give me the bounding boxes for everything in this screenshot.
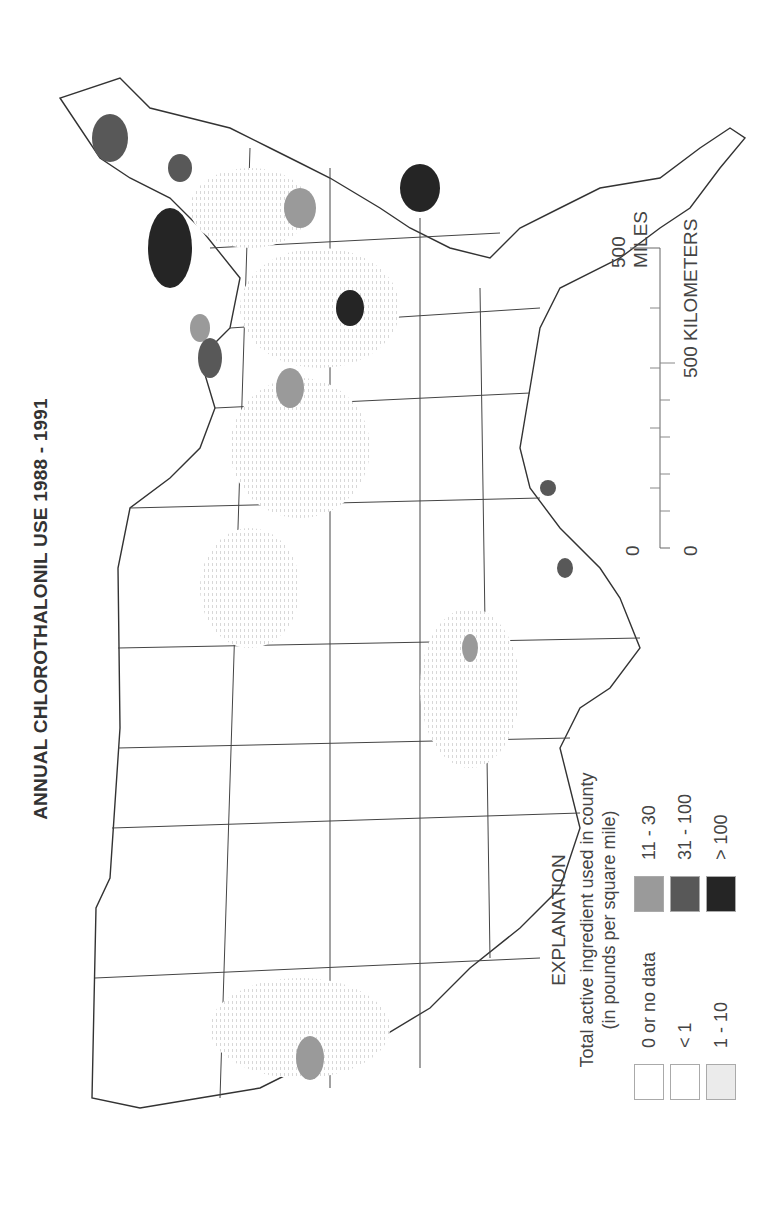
legend-label: 31 - 100 — [675, 794, 696, 860]
legend-swatch — [670, 1064, 700, 1100]
legend-label: > 100 — [711, 814, 732, 860]
legend-item: 0 or no data — [634, 952, 664, 1100]
legend-item: 31 - 100 — [670, 794, 700, 912]
map-figure: ANNUAL CHLOROTHALONIL USE 1988 - 1991 — [0, 0, 783, 1208]
legend-item: 11 - 30 — [634, 794, 664, 912]
legend-item: > 100 — [706, 794, 736, 912]
legend-item: < 1 — [670, 952, 700, 1100]
legend-swatch — [634, 876, 664, 912]
scale-bar: 0 500 MILES 0 500 KILOMETERS — [600, 208, 720, 568]
scale-km-label: 500 KILOMETERS — [680, 219, 702, 378]
legend-swatch — [670, 876, 700, 912]
legend-heading: EXPLANATION — [548, 740, 570, 1100]
legend-label: 11 - 30 — [639, 805, 660, 860]
legend-subtitle-1: Total active ingredient used in county — [576, 740, 598, 1100]
scale-km-zero: 0 — [680, 545, 702, 556]
legend-label: < 1 — [675, 1022, 696, 1048]
legend-label: 0 or no data — [639, 952, 660, 1048]
legend: EXPLANATION Total active ingredient used… — [548, 680, 736, 1100]
legend-swatch — [634, 1064, 664, 1100]
legend-swatch — [706, 876, 736, 912]
scale-miles-zero: 0 — [622, 545, 644, 556]
legend-subtitle-2: (in pounds per square mile) — [598, 740, 620, 1100]
legend-label: 1 - 10 — [711, 1002, 732, 1048]
legend-swatch — [706, 1064, 736, 1100]
scale-miles-label: 500 MILES — [608, 208, 652, 268]
legend-item: 1 - 10 — [706, 952, 736, 1100]
